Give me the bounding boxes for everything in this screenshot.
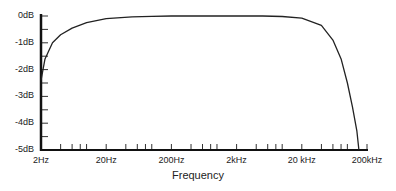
y-tick-label: -2dB [0, 64, 34, 74]
y-tick-label: -1dB [0, 37, 34, 47]
y-tick-label: -3dB [0, 90, 34, 100]
x-axis-title: Frequency [0, 169, 396, 181]
y-tick-label: -4dB [0, 117, 34, 127]
x-tick-label: 20 kHz [277, 155, 327, 165]
response-curve [41, 16, 359, 150]
x-tick-label: 2kHz [212, 155, 262, 165]
x-tick-label: 20Hz [81, 155, 131, 165]
x-tick-label: 200Hz [146, 155, 196, 165]
x-tick-label: 200kHz [342, 155, 392, 165]
y-tick-label: -5dB [0, 144, 34, 154]
x-tick-label: 2Hz [16, 155, 66, 165]
y-tick-label: 0dB [0, 10, 34, 20]
